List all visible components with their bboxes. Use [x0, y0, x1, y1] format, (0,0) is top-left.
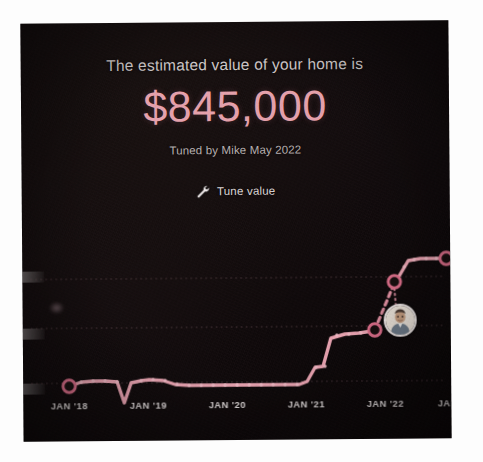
home-value-card: The estimated value of your home is $845…	[20, 20, 451, 441]
avatar[interactable]	[384, 304, 417, 337]
wrench-icon	[196, 184, 210, 198]
chart-x-axis: JAN '18 JAN '19 JAN '20 JAN '21 JAN '22 …	[23, 398, 451, 421]
x-tick-label: JAN '18	[51, 401, 88, 411]
x-tick-label: JAN '23	[438, 398, 452, 408]
x-tick-label: JAN '22	[367, 399, 404, 409]
tuned-by-caption: Tuned by Mike May 2022	[21, 142, 449, 157]
tune-value-label: Tune value	[217, 185, 276, 197]
x-tick-label: JAN '19	[130, 401, 167, 411]
tune-value-button[interactable]: Tune value	[22, 182, 450, 199]
page-title: The estimated value of your home is	[21, 54, 449, 75]
x-tick-label: JAN '21	[288, 399, 325, 409]
estimated-value: $845,000	[21, 80, 449, 132]
user-avatar-photo	[386, 306, 415, 335]
screenshot-root: The estimated value of your home is $845…	[0, 0, 483, 462]
x-tick-label: JAN '20	[209, 400, 246, 410]
